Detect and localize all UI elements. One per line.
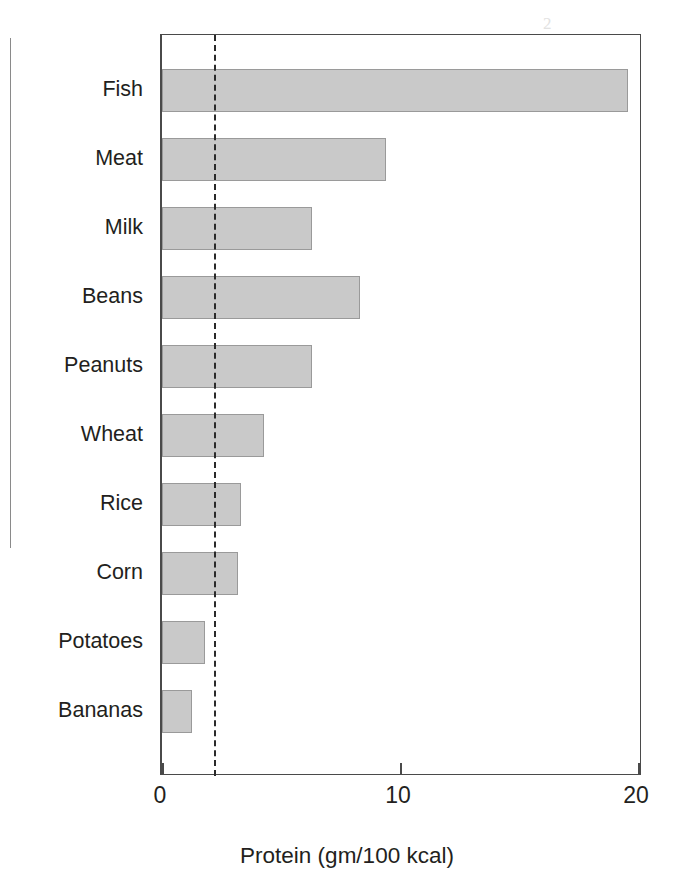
category-label-milk: Milk <box>0 217 143 239</box>
bar-beans <box>162 276 360 319</box>
bar-rice <box>162 483 241 526</box>
bar-fish <box>162 69 628 112</box>
category-label-peanuts: Peanuts <box>0 355 143 377</box>
bar-corn <box>162 552 238 595</box>
bar-wheat <box>162 414 264 457</box>
x-axis-title: Protein (gm/100 kcal) <box>0 845 694 868</box>
plot-area <box>160 34 641 775</box>
scan-artifact-mark: 2 <box>543 14 552 34</box>
category-labels-column: FishMeatMilkBeansPeanutsWheatRiceCornPot… <box>0 34 143 775</box>
bar-row <box>162 276 643 319</box>
category-label-beans: Beans <box>0 286 143 308</box>
x-tick-0 <box>162 763 164 774</box>
protein-content-bar-chart: 2 FishMeatMilkBeansPeanutsWheatRiceCornP… <box>0 0 694 890</box>
bar-potatoes <box>162 621 205 664</box>
category-label-rice: Rice <box>0 493 143 515</box>
category-label-corn: Corn <box>0 562 143 584</box>
category-label-potatoes: Potatoes <box>0 631 143 653</box>
bar-row <box>162 414 643 457</box>
bar-row <box>162 138 643 181</box>
x-tick-20 <box>638 763 640 774</box>
category-label-meat: Meat <box>0 148 143 170</box>
bar-row <box>162 483 643 526</box>
reference-line <box>214 35 216 776</box>
bar-meat <box>162 138 386 181</box>
x-tick-label-20: 20 <box>623 784 649 807</box>
bar-row <box>162 690 643 733</box>
bar-bananas <box>162 690 192 733</box>
x-tick-10 <box>400 763 402 774</box>
bar-milk <box>162 207 312 250</box>
bar-row <box>162 345 643 388</box>
category-label-fish: Fish <box>0 79 143 101</box>
x-tick-label-10: 10 <box>385 784 411 807</box>
category-label-bananas: Bananas <box>0 700 143 722</box>
x-tick-label-0: 0 <box>154 784 167 807</box>
bar-row <box>162 552 643 595</box>
category-label-wheat: Wheat <box>0 424 143 446</box>
bar-row <box>162 207 643 250</box>
bar-row <box>162 621 643 664</box>
bar-row <box>162 69 643 112</box>
bar-peanuts <box>162 345 312 388</box>
